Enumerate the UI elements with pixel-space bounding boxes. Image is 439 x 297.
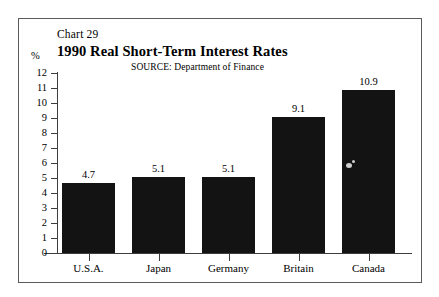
y-tick-mark (51, 73, 57, 74)
y-tick-mark (51, 148, 57, 149)
bar-value-label: 4.7 (64, 169, 114, 181)
y-tick-mark (51, 163, 57, 164)
y-tick-mark (51, 118, 57, 119)
bar (62, 183, 115, 253)
y-axis-line (57, 72, 58, 254)
x-axis-line (44, 253, 412, 254)
y-tick-mark (51, 208, 57, 209)
x-tick-mark (299, 254, 300, 261)
bar (272, 117, 325, 253)
chart-page: Chart 29 1990 Real Short-Term Interest R… (0, 0, 439, 297)
y-tick-mark (51, 223, 57, 224)
bar-value-label: 5.1 (134, 163, 184, 175)
y-tick-mark (51, 238, 57, 239)
y-tick-mark (51, 103, 57, 104)
y-tick-label: 1 (27, 232, 47, 243)
y-tick-label: 3 (27, 202, 47, 213)
y-tick-label: 10 (27, 97, 47, 108)
y-tick-label: 11 (27, 82, 47, 93)
bar (342, 90, 395, 253)
category-label: Germany (189, 262, 269, 275)
y-tick-label: 5 (27, 172, 47, 183)
bar (202, 177, 255, 253)
y-tick-mark (51, 88, 57, 89)
y-tick-mark (51, 133, 57, 134)
bar (132, 177, 185, 253)
category-label: Japan (119, 262, 199, 275)
y-tick-label: 2 (27, 217, 47, 228)
y-tick-label: 4 (27, 187, 47, 198)
category-label: U.S.A. (49, 262, 129, 275)
x-tick-mark (369, 254, 370, 261)
category-label: Britain (259, 262, 339, 275)
y-tick-label: 0 (27, 247, 47, 258)
x-tick-mark (229, 254, 230, 261)
y-tick-label: 8 (27, 127, 47, 138)
bar-value-label: 9.1 (274, 103, 324, 115)
x-tick-mark (159, 254, 160, 261)
y-tick-label: 6 (27, 157, 47, 168)
plot-area: 0123456789101112 4.75.15.19.110.9 U.S.A.… (0, 0, 439, 297)
paper-speck-icon (346, 163, 352, 168)
y-tick-label: 12 (27, 67, 47, 78)
x-tick-mark (89, 254, 90, 261)
y-tick-label: 9 (27, 112, 47, 123)
y-tick-mark (51, 253, 57, 254)
paper-speck-secondary-icon (352, 160, 355, 163)
y-tick-mark (51, 178, 57, 179)
y-tick-label: 7 (27, 142, 47, 153)
bar-value-label: 10.9 (344, 76, 394, 88)
category-label: Canada (329, 262, 409, 275)
bar-value-label: 5.1 (204, 163, 254, 175)
y-tick-mark (51, 193, 57, 194)
